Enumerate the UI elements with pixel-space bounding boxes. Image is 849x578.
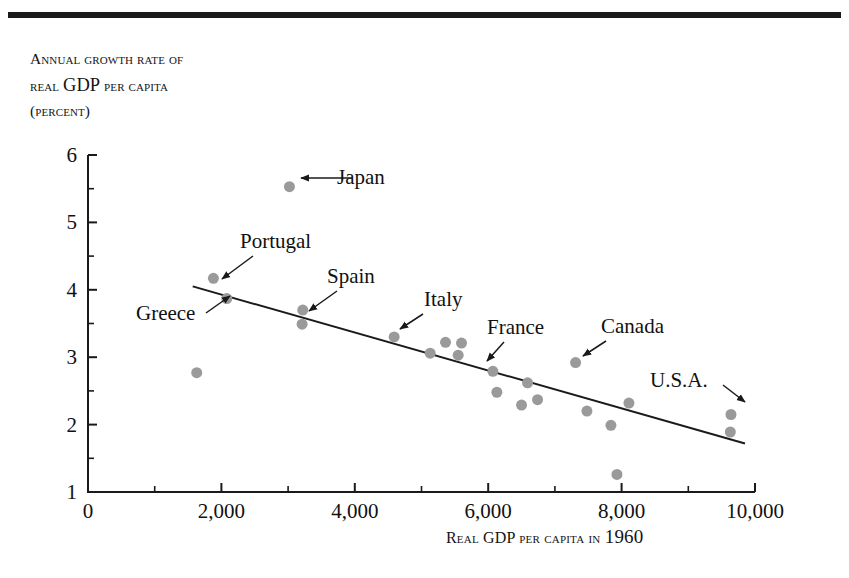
data-point-usa: [725, 409, 736, 420]
y-tick-label: 3: [67, 345, 78, 369]
x-tick-label: 4,000: [331, 499, 378, 523]
y-tick-label: 4: [67, 278, 78, 302]
data-point: [516, 400, 527, 411]
data-point-france: [487, 366, 498, 377]
y-tick-label: 2: [67, 413, 78, 437]
annotation-label-france: France: [487, 315, 544, 339]
x-tick-label: 0: [83, 499, 94, 523]
x-tick-label: 2,000: [198, 499, 245, 523]
annotation-leader-line: [723, 385, 745, 402]
data-point: [581, 406, 592, 417]
annotation-group: JapanPortugalGreeceSpainItalyFranceCanad…: [136, 165, 745, 402]
trendline-group: [193, 286, 745, 443]
data-point-spain: [297, 305, 308, 316]
data-point: [456, 338, 467, 349]
y-tick-label: 1: [67, 480, 78, 504]
data-point: [522, 377, 533, 388]
data-point: [725, 427, 736, 438]
annotation-label-spain: Spain: [327, 264, 375, 288]
annotation-label-greece: Greece: [136, 301, 195, 325]
data-point-portugal: [208, 273, 219, 284]
data-point: [491, 387, 502, 398]
annotation-leader-line: [222, 256, 253, 279]
data-point-japan: [284, 181, 295, 192]
data-point: [605, 420, 616, 431]
data-point: [532, 394, 543, 405]
data-point-canada: [570, 357, 581, 368]
annotation-label-japan: Japan: [337, 165, 385, 189]
x-tick-label: 8,000: [598, 499, 645, 523]
data-point: [623, 398, 634, 409]
x-tick-label: 6,000: [465, 499, 512, 523]
annotation-leader-line: [487, 342, 504, 361]
annotation-leader-line: [583, 341, 606, 356]
trend-line: [193, 286, 745, 443]
data-point: [297, 319, 308, 330]
data-point-italy: [389, 331, 400, 342]
annotation-label-portugal: Portugal: [240, 229, 311, 253]
data-point: [611, 469, 622, 480]
data-point: [191, 367, 202, 378]
data-point: [453, 350, 464, 361]
annotation-label-canada: Canada: [601, 314, 665, 338]
annotation-leader-line: [309, 291, 337, 311]
x-tick-label: 10,000: [726, 499, 784, 523]
annotation-label-usa: U.S.A.: [650, 368, 708, 392]
y-tick-label: 5: [67, 210, 78, 234]
scatter-plot: 02,0004,0006,0008,00010,000123456 JapanP…: [0, 0, 849, 578]
data-point: [425, 348, 436, 359]
annotation-leader-line: [400, 314, 423, 329]
tick-label-group: 02,0004,0006,0008,00010,000123456: [67, 143, 784, 523]
data-point: [440, 337, 451, 348]
figure-root: Annual growth rate of real GDP per capit…: [0, 0, 849, 578]
y-tick-label: 6: [67, 143, 78, 167]
annotation-label-italy: Italy: [424, 287, 463, 311]
annotation-leader-line: [206, 296, 230, 313]
